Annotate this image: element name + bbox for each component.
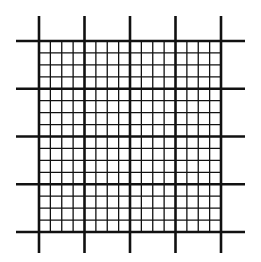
grid-figure bbox=[0, 0, 261, 262]
